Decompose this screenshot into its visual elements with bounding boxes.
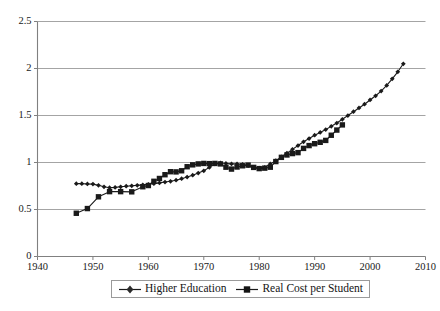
x-tick-label: 1980 — [234, 261, 284, 272]
y-tick-label: 1 — [0, 156, 32, 167]
axis-ticks — [34, 22, 426, 261]
chart-container: 00.511.522.5 194019501960197019801990200… — [0, 0, 440, 311]
x-tick-label: 2010 — [401, 261, 440, 272]
gridlines — [38, 22, 426, 210]
chart-legend: Higher Education Real Cost per Student — [111, 280, 370, 298]
legend-label-real-cost-per-student: Real Cost per Student — [262, 283, 363, 295]
y-tick-label: 1.5 — [0, 109, 32, 120]
y-tick-label: 2 — [0, 62, 32, 73]
x-tick-label: 1940 — [13, 261, 63, 272]
x-tick-label: 1960 — [123, 261, 173, 272]
y-tick-label: 0.5 — [0, 203, 32, 214]
diamond-marker-icon — [118, 284, 142, 295]
y-tick-label: 2.5 — [0, 15, 32, 26]
square-marker-icon — [235, 284, 259, 295]
legend-item-real-cost-per-student[interactable]: Real Cost per Student — [235, 283, 363, 295]
legend-label-higher-education: Higher Education — [145, 283, 226, 295]
y-tick-label: 0 — [0, 250, 32, 261]
axis-lines — [38, 22, 426, 257]
x-tick-label: 1950 — [68, 261, 118, 272]
legend-item-higher-education[interactable]: Higher Education — [118, 283, 226, 295]
x-tick-label: 1970 — [179, 261, 229, 272]
x-tick-label: 1990 — [290, 261, 340, 272]
x-tick-label: 2000 — [345, 261, 395, 272]
series-higher-education — [74, 61, 406, 190]
